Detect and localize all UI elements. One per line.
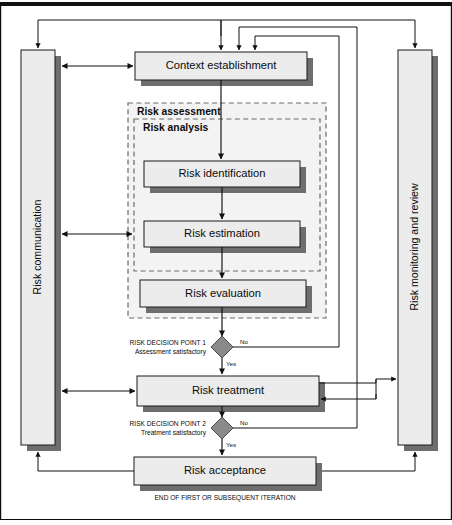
footer-note: END OF FIRST OR SUBSEQUENT ITERATION: [154, 494, 295, 502]
box-label-context-establishment: Context establishment: [166, 59, 278, 71]
decision-2-yes-label: Yes: [226, 441, 236, 448]
decision-1-no-label: No: [240, 338, 248, 345]
risk-management-process-diagram: Risk assessment Risk analysis Risk commu…: [0, 0, 452, 525]
box-label-risk-identification: Risk identification: [178, 167, 265, 179]
decision-1-title: RISK DECISION POINT 1: [130, 339, 207, 346]
decision-1-subtitle: Assessment satisfactory: [135, 348, 207, 356]
box-label-risk-treatment: Risk treatment: [192, 384, 265, 396]
rail-top-to-monitoring: [221, 20, 415, 48]
bar-label-risk-monitoring-and-review: Risk monitoring and review: [408, 183, 420, 311]
decision-2-subtitle: Treatment satisfactory: [141, 429, 207, 437]
diamond-risk-decision-point-1[interactable]: [211, 336, 233, 358]
diagram-canvas: Risk assessment Risk analysis Risk commu…: [0, 0, 452, 525]
group-label-risk-assessment: Risk assessment: [137, 106, 221, 117]
box-label-risk-evaluation: Risk evaluation: [185, 287, 261, 299]
top-rule: [0, 2, 452, 6]
link-monitoring-to-treatment: [321, 394, 376, 399]
decision-2-no-label: No: [240, 419, 248, 426]
return-acceptance-to-monitoring: [322, 452, 415, 471]
group-label-risk-analysis: Risk analysis: [143, 122, 209, 133]
rail-top-to-communication: [38, 20, 221, 48]
box-label-risk-estimation: Risk estimation: [184, 227, 260, 239]
diamond-risk-decision-point-2[interactable]: [211, 417, 233, 439]
box-label-risk-acceptance: Risk acceptance: [184, 464, 266, 476]
decision-2-title: RISK DECISION POINT 2: [130, 420, 207, 427]
return-acceptance-to-communication: [38, 452, 134, 471]
bar-label-risk-communication: Risk communication: [31, 200, 43, 295]
decision-1-yes-label: Yes: [226, 360, 236, 367]
